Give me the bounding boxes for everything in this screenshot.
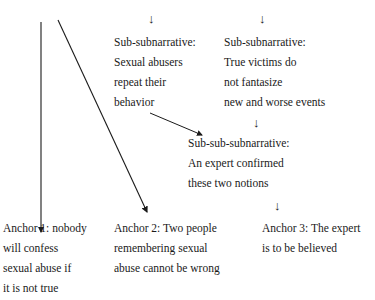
down-arrow-icon: ↓ bbox=[253, 116, 260, 130]
anchor-line: will confess bbox=[3, 238, 87, 258]
anchor-2: Anchor 2: Two people remembering sexual … bbox=[114, 218, 220, 278]
block-line: True victims do bbox=[224, 52, 325, 72]
sub-subnarrative-abusers: Sub-subnarrative: Sexual abusers repeat … bbox=[114, 32, 196, 112]
anchor-line: is to be believed bbox=[262, 238, 360, 258]
block-line: not fantasize bbox=[224, 72, 325, 92]
block-line: repeat their bbox=[114, 72, 196, 92]
anchor-3: Anchor 3: The expert is to be believed bbox=[262, 218, 360, 258]
block-line: these two notions bbox=[188, 173, 290, 193]
anchor-1: Anchor 1: nobody will confess sexual abu… bbox=[3, 218, 87, 298]
block-label: Sub-subnarrative: bbox=[114, 32, 196, 52]
anchor-line: remembering sexual bbox=[114, 238, 220, 258]
sub-sub-subnarrative-expert: Sub-sub-subnarrative: An expert confirme… bbox=[188, 133, 290, 193]
anchor-line: abuse cannot be wrong bbox=[114, 258, 220, 278]
anchor-line: sexual abuse if bbox=[3, 258, 87, 278]
block-line: behavior bbox=[114, 92, 196, 112]
block-line: An expert confirmed bbox=[188, 153, 290, 173]
block-line: new and worse events bbox=[224, 92, 325, 112]
anchor-line: Anchor 2: Two people bbox=[114, 218, 220, 238]
down-arrow-icon: ↓ bbox=[148, 12, 155, 26]
down-arrow-icon: ↓ bbox=[274, 199, 281, 213]
anchor-line: Anchor 3: The expert bbox=[262, 218, 360, 238]
block-label: Sub-sub-subnarrative: bbox=[188, 133, 290, 153]
block-line: Sexual abusers bbox=[114, 52, 196, 72]
block-label: Sub-subnarrative: bbox=[224, 32, 325, 52]
anchor-line: it is not true bbox=[3, 278, 87, 298]
sub-subnarrative-victims: Sub-subnarrative: True victims do not fa… bbox=[224, 32, 325, 112]
anchor-line: Anchor 1: nobody bbox=[3, 218, 87, 238]
down-arrow-icon: ↓ bbox=[259, 12, 266, 26]
behavior-to-expert-connector bbox=[150, 113, 202, 135]
